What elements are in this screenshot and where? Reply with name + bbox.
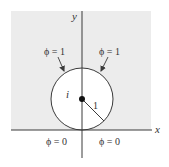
phi-label-bottom-left: ϕ = 0 — [46, 136, 67, 147]
center-point — [79, 96, 85, 102]
radius-label: 1 — [93, 100, 98, 111]
diagram: y x ϕ = 1 ϕ = 1 i 1 ϕ = 0 ϕ = 0 — [0, 0, 169, 167]
center-label-i: i — [66, 88, 69, 100]
x-axis-label: x — [154, 123, 160, 135]
phi-label-bottom-right: ϕ = 0 — [99, 136, 120, 147]
y-axis-label: y — [71, 10, 77, 22]
phi-label-top-right: ϕ = 1 — [99, 46, 120, 57]
phi-label-top-left: ϕ = 1 — [44, 46, 65, 57]
